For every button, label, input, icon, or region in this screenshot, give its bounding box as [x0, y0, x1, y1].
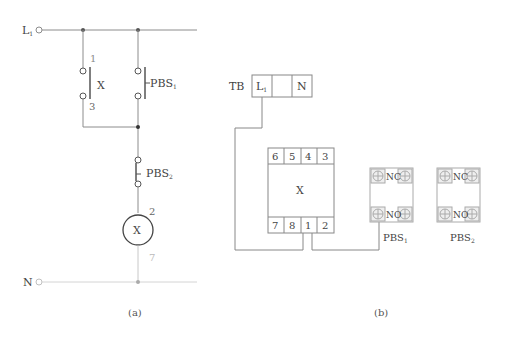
pbs1-caption: PBS1 [383, 232, 408, 244]
screw-icon [373, 171, 383, 181]
relay-pin: 8 [289, 220, 295, 231]
relay-pin: 7 [272, 220, 278, 231]
screw-icon [373, 209, 383, 219]
tb-cell-n: N [297, 80, 307, 93]
pbs2-terminal-icon [135, 181, 141, 187]
screw-icon [440, 171, 450, 181]
pbs2-no-label: NO [453, 210, 468, 220]
screw-icon [440, 209, 450, 219]
diagram-canvas: L1 N 1 X 3 PBS1 PBS2 2 X 7 (a) [0, 0, 513, 352]
caption-a: (a) [128, 307, 142, 318]
relay-label: X [296, 184, 304, 197]
pbs1-label: PBS1 [150, 77, 177, 90]
screw-icon [400, 171, 410, 181]
relay-pin: 4 [305, 151, 311, 162]
terminal-label: 2 [149, 206, 155, 217]
l1-terminal-icon [36, 27, 42, 33]
relay-pin: 5 [289, 151, 295, 162]
screw-icon [400, 209, 410, 219]
caption-b: (b) [374, 307, 388, 318]
pbs1-no-label: NO [386, 210, 401, 220]
n-label: N [23, 276, 33, 289]
pbs2-caption: PBS2 [450, 232, 475, 244]
pbs1-terminal-icon [135, 93, 141, 99]
l1-label: L1 [22, 24, 33, 37]
pbs2-label: PBS2 [146, 167, 173, 180]
relay-pin: 3 [322, 151, 328, 162]
terminal-label: 7 [149, 252, 155, 263]
terminal-label: 3 [89, 101, 95, 112]
screw-icon [467, 171, 477, 181]
contact-x-label: X [97, 79, 105, 92]
ladder-diagram [36, 27, 197, 285]
coil-label: X [133, 224, 141, 237]
tb-label: TB [229, 80, 244, 93]
pbs2-nc-label: NC [453, 172, 468, 182]
junction-dot-icon [136, 280, 140, 284]
relay-pin: 1 [305, 220, 311, 231]
pbs1-nc-label: NC [386, 172, 401, 182]
relay-pin: 2 [322, 220, 328, 231]
contact-terminal-icon [80, 68, 86, 74]
pbs1-terminal-icon [135, 68, 141, 74]
pbs2-terminal-icon [135, 157, 141, 163]
n-terminal-icon [36, 279, 42, 285]
contact-terminal-icon [80, 93, 86, 99]
junction-dot-icon [136, 125, 140, 129]
relay-pin: 6 [272, 151, 278, 162]
terminal-label: 1 [90, 53, 96, 64]
screw-icon [467, 209, 477, 219]
